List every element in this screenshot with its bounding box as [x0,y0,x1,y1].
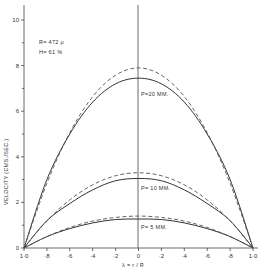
x-tick-label: ·4 [90,253,96,259]
series-line [24,173,253,248]
x-tick-label: 0 [137,253,141,259]
x-tick-label: ·8 [227,253,233,259]
y-tick-label: 10 [12,17,19,23]
series-lines [24,68,253,248]
velocity-profile-chart: 0246810 1·0·8·6·4·20·2·4·6·81·0 VELOCITY… [0,0,267,275]
x-tick-label: ·6 [67,253,73,259]
series-line [24,219,253,248]
hematocrit-annotation: H= 61 % [39,49,62,55]
x-axis-label: λ = r / R [122,262,144,268]
y-tick-label: 0 [16,245,20,251]
y-tick-label: 2 [16,199,20,205]
x-tick-label: ·8 [44,253,50,259]
series-line [24,68,253,248]
x-tick-label: 1·0 [249,253,258,259]
radius-annotation: R= 472 μ [39,39,64,45]
x-tick-label: ·4 [182,253,188,259]
series-line [24,178,253,248]
y-ticks: 0246810 [12,17,24,251]
y-tick-label: 8 [16,63,20,69]
y-tick-label: 4 [16,154,20,160]
y-tick-label: 6 [16,108,20,114]
x-ticks: 1·0·8·6·4·20·2·4·6·81·0 [20,248,258,259]
x-tick-label: ·6 [205,253,211,259]
x-tick-label: ·2 [159,253,165,259]
x-tick-label: ·2 [113,253,119,259]
y-axis-label: VELOCITY (CMS./SEC.) [3,139,9,205]
series-line [24,78,253,248]
x-tick-label: 1·0 [20,253,29,259]
p20-label: P=20 MM. [141,91,169,97]
p5-label: P= 5 MM. [141,224,167,230]
p10-label: P= 10 MM. [141,185,171,191]
